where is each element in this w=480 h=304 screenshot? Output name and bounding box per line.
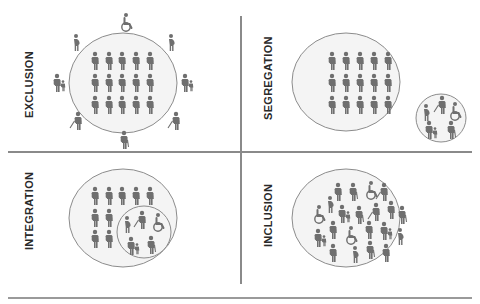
pregnant-woman-icon: [74, 34, 80, 51]
inclusion-panel: [292, 169, 407, 267]
parent-child-icon: [182, 74, 194, 92]
elderly-person-icon: [121, 131, 129, 149]
wheelchair-icon: [122, 13, 132, 31]
diagram-canvas: [0, 0, 480, 304]
integration-panel: [69, 169, 177, 267]
blind-person-icon: [168, 112, 180, 130]
pregnant-woman-icon: [169, 34, 175, 51]
segregation-panel: [292, 33, 466, 142]
parent-child-icon: [54, 74, 66, 92]
blind-person-icon: [70, 112, 82, 130]
exclusion-panel: [54, 13, 194, 149]
